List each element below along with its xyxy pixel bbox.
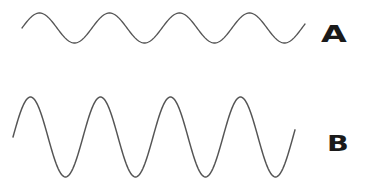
wave-diagram [0, 0, 367, 193]
wave-b-curve [13, 97, 295, 177]
wave-a-curve [22, 13, 305, 43]
wave-b-label: B [327, 133, 349, 155]
wave-a-label: A [321, 23, 347, 46]
